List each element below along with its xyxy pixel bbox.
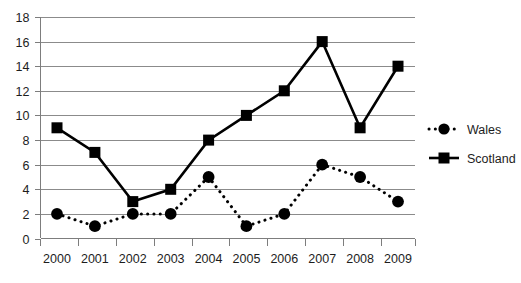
line-chart: 024681012141618 200020012002200320042005… (0, 0, 521, 283)
data-point-wales (316, 159, 328, 171)
x-tick-label: 2007 (308, 252, 336, 266)
y-tick-label: 18 (16, 11, 30, 25)
data-point-scotland (52, 122, 63, 133)
data-point-wales (51, 208, 63, 220)
y-tick-label: 16 (16, 36, 30, 50)
y-tick-label: 2 (23, 208, 30, 222)
data-point-wales (203, 171, 215, 183)
y-tick-label: 4 (23, 183, 30, 197)
y-tick-label: 0 (23, 233, 30, 247)
data-point-wales (127, 208, 139, 220)
y-tick-label: 6 (23, 159, 30, 173)
y-tick-label: 14 (16, 60, 30, 74)
x-tick-label: 2004 (195, 252, 223, 266)
x-tick-label: 2002 (119, 252, 147, 266)
x-tick-label: 2005 (233, 252, 261, 266)
legend-item-scotland[interactable]: Scotland (429, 152, 516, 166)
data-point-scotland (241, 110, 252, 121)
data-point-scotland (89, 147, 100, 158)
data-point-wales (354, 171, 366, 183)
data-point-scotland (203, 135, 214, 146)
chart-canvas: 024681012141618 200020012002200320042005… (0, 0, 521, 283)
legend-label-scotland: Scotland (467, 152, 516, 166)
x-tick-label: 2006 (270, 252, 298, 266)
data-point-wales (165, 208, 177, 220)
x-tick-label: 2009 (384, 252, 412, 266)
legend-marker-wales (438, 123, 449, 134)
data-point-wales (89, 220, 101, 232)
x-tick-label: 2000 (43, 252, 71, 266)
data-point-scotland (127, 196, 138, 207)
y-tick-label: 10 (16, 109, 30, 123)
data-point-wales (241, 220, 253, 232)
data-point-scotland (317, 36, 328, 47)
data-point-scotland (279, 85, 290, 96)
data-point-wales (392, 196, 404, 208)
x-tick-label: 2008 (346, 252, 374, 266)
legend-label-wales: Wales (467, 123, 501, 137)
data-point-scotland (393, 61, 404, 72)
y-tick-label: 8 (23, 134, 30, 148)
data-point-scotland (355, 122, 366, 133)
data-point-wales (278, 208, 290, 220)
x-tick-label: 2001 (81, 252, 109, 266)
legend-marker-scotland (439, 153, 450, 164)
x-tick-label: 2003 (157, 252, 185, 266)
data-point-scotland (165, 184, 176, 195)
y-tick-label: 12 (16, 85, 30, 99)
